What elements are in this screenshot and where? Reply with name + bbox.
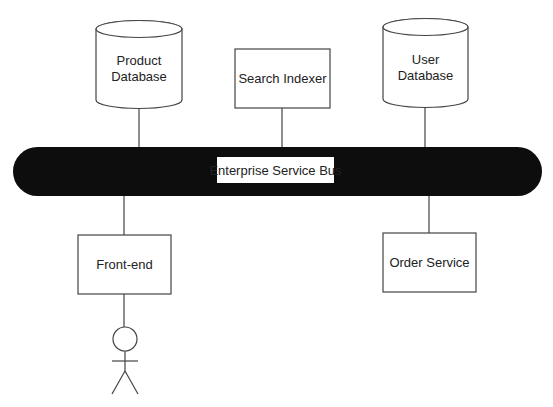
front-end[interactable]: Front-end xyxy=(78,235,171,294)
search-indexer-label: Search Indexer xyxy=(238,71,327,86)
actor-left-leg xyxy=(112,371,125,394)
user-database[interactable]: User Database xyxy=(383,19,468,108)
user-actor-icon xyxy=(112,327,138,394)
bus-label: Enterprise Service Bus xyxy=(209,163,342,178)
search-indexer[interactable]: Search Indexer xyxy=(235,49,330,108)
user-database-label-line2: Database xyxy=(398,68,454,83)
actor-right-leg xyxy=(125,371,138,394)
database-top-ellipse xyxy=(383,19,468,36)
architecture-diagram: Product Database Search Indexer User Dat… xyxy=(0,0,553,407)
enterprise-service-bus[interactable]: Enterprise Service Bus xyxy=(13,147,542,196)
user-database-label-line1: User xyxy=(412,52,440,67)
product-database[interactable]: Product Database xyxy=(96,21,182,109)
order-service-label: Order Service xyxy=(389,255,469,270)
front-end-label: Front-end xyxy=(96,257,152,272)
actor-head xyxy=(113,327,137,351)
order-service[interactable]: Order Service xyxy=(383,233,476,292)
database-top-ellipse xyxy=(96,21,182,38)
product-database-label-line2: Database xyxy=(111,69,167,84)
product-database-label-line1: Product xyxy=(117,53,162,68)
